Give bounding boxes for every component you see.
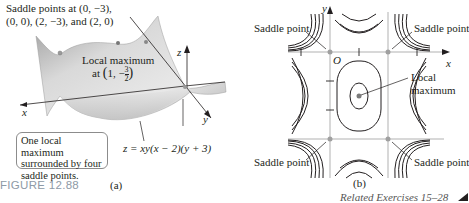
saddle-point-label-tl: Saddle point xyxy=(254,22,309,34)
local-max-label-b-line2: maximum xyxy=(411,84,456,96)
axis-y-label-b: y xyxy=(322,2,327,14)
axis-x-label-b: x xyxy=(446,57,451,69)
axis-z-label-a: z xyxy=(177,46,181,58)
axis-y-label-a: y xyxy=(203,113,208,125)
local-max-coords: at (1, −32) xyxy=(92,66,133,83)
caption-a: (a) xyxy=(110,179,122,191)
saddle-point-label-bl: Saddle point xyxy=(254,156,309,168)
related-exercises: Related Exercises 15–28 xyxy=(340,191,448,203)
origin-label: O xyxy=(333,54,341,66)
axis-x-label-a: x xyxy=(22,106,27,118)
saddle-points-note-line2: (0, 0), (2, −3), and (2, 0) xyxy=(6,15,113,27)
local-max-prefix: at xyxy=(92,67,100,79)
saddle-points-note-line1: Saddle points at (0, −3), xyxy=(6,2,112,14)
local-max-label-b-line1: Local xyxy=(411,71,436,83)
callout-line2: surrounded by four xyxy=(21,158,103,170)
callout-line1: One local maximum xyxy=(21,135,103,158)
callout-box: One local maximum surrounded by four sad… xyxy=(16,132,108,169)
equation-label: z = xy(x − 2)(y + 3) xyxy=(123,142,211,154)
saddle-point-label-tr: Saddle point xyxy=(414,22,469,34)
local-max-x: 1, xyxy=(107,67,115,79)
figure-label: FIGURE 12.88 xyxy=(0,179,79,191)
saddle-point-label-br: Saddle point xyxy=(414,156,469,168)
caption-b: (b) xyxy=(353,177,366,189)
local-max-label: Local maximum xyxy=(82,54,154,66)
